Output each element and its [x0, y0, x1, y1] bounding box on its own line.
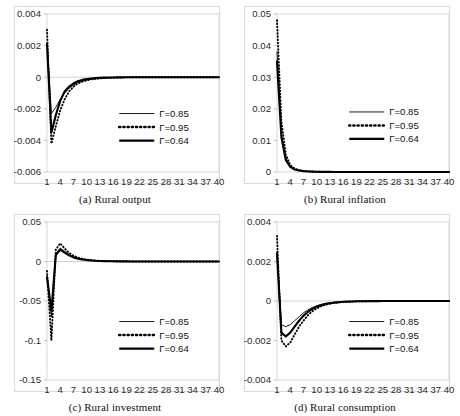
- legend-label-1: Γ=0.85: [389, 316, 419, 327]
- x-tick-label: 4: [58, 384, 64, 395]
- x-tick-label: 40: [214, 176, 225, 187]
- x-tick-label: 13: [325, 176, 336, 187]
- x-tick-label: 4: [288, 384, 294, 395]
- x-tick-label: 28: [391, 176, 402, 187]
- x-tick-label: 31: [174, 176, 185, 187]
- plot-border: [277, 14, 449, 172]
- x-tick-label: 25: [378, 176, 389, 187]
- chart-a: 0.0040.0020-0.002-0.004-0.00614710131619…: [0, 0, 230, 208]
- panel-caption-b: (b) Rural inflation: [230, 193, 460, 205]
- x-tick-label: 28: [161, 176, 172, 187]
- x-tick-label: 19: [121, 176, 132, 187]
- chart-c: 0.050-0.05-0.1-0.15147101316192225283134…: [0, 208, 230, 416]
- chart-d: 0.0040.0020-0.002-0.00414710131619222528…: [230, 208, 460, 416]
- legend-label-3: Γ=0.64: [159, 135, 189, 146]
- x-tick-label: 34: [187, 384, 198, 395]
- y-tick-label: -0.002: [244, 335, 271, 346]
- x-tick-label: 40: [444, 384, 455, 395]
- y-tick-label: 0.03: [252, 72, 271, 83]
- x-tick-label: 37: [430, 176, 441, 187]
- legend-label-3: Γ=0.64: [389, 133, 419, 144]
- y-tick-label: -0.05: [19, 295, 41, 306]
- y-tick-label: -0.004: [14, 135, 42, 146]
- x-tick-label: 40: [214, 384, 225, 395]
- y-tick-label: 0.04: [252, 40, 271, 51]
- x-tick-label: 34: [417, 176, 428, 187]
- y-tick-label: 0.01: [252, 135, 271, 146]
- y-tick-label: 0.004: [17, 8, 42, 19]
- legend-label-2: Γ=0.95: [159, 330, 189, 341]
- y-tick-label: 0.002: [247, 256, 271, 267]
- x-tick-label: 7: [301, 176, 306, 187]
- legend-label-3: Γ=0.64: [389, 343, 419, 354]
- y-tick-label: 0: [266, 295, 271, 306]
- panel-a: 0.0040.0020-0.002-0.004-0.00614710131619…: [0, 0, 230, 208]
- x-tick-label: 28: [161, 384, 172, 395]
- x-tick-label: 40: [444, 176, 455, 187]
- x-tick-label: 31: [404, 384, 415, 395]
- y-tick-label: 0: [36, 72, 41, 83]
- x-tick-label: 22: [134, 384, 145, 395]
- y-tick-label: 0.02: [252, 103, 271, 114]
- x-tick-label: 31: [404, 176, 415, 187]
- y-tick-label: 0.002: [17, 40, 41, 51]
- y-tick-label: 0: [266, 166, 271, 177]
- x-tick-label: 25: [148, 176, 159, 187]
- x-tick-label: 10: [311, 176, 322, 187]
- x-tick-label: 37: [200, 176, 211, 187]
- x-tick-label: 16: [108, 384, 119, 395]
- y-tick-label: -0.15: [19, 374, 41, 385]
- y-tick-label: 0.05: [252, 8, 271, 19]
- y-tick-label: -0.1: [24, 335, 41, 346]
- x-tick-label: 13: [325, 384, 336, 395]
- y-tick-label: -0.004: [244, 374, 272, 385]
- y-tick-label: 0.004: [247, 216, 272, 227]
- panel-caption-c: (c) Rural investment: [0, 401, 230, 413]
- figure-container: 0.0040.0020-0.002-0.004-0.00614710131619…: [0, 0, 460, 416]
- x-tick-label: 22: [364, 384, 375, 395]
- x-tick-label: 4: [58, 176, 64, 187]
- panel-d: 0.0040.0020-0.002-0.00414710131619222528…: [230, 208, 460, 416]
- y-tick-label: 0.05: [22, 216, 41, 227]
- x-tick-label: 1: [274, 176, 279, 187]
- x-tick-label: 22: [134, 176, 145, 187]
- legend-label-1: Γ=0.85: [159, 108, 189, 119]
- panel-b: 0.050.040.030.020.0101471013161922252831…: [230, 0, 460, 208]
- x-tick-label: 25: [378, 384, 389, 395]
- x-tick-label: 4: [288, 176, 294, 187]
- x-tick-label: 13: [95, 176, 106, 187]
- legend-label-1: Γ=0.85: [389, 106, 419, 117]
- x-tick-label: 16: [108, 176, 119, 187]
- x-tick-label: 1: [44, 384, 49, 395]
- plot-border: [47, 222, 219, 380]
- legend-label-2: Γ=0.95: [159, 122, 189, 133]
- y-tick-label: 0: [36, 256, 41, 267]
- legend-label-2: Γ=0.95: [389, 120, 419, 131]
- x-tick-label: 34: [187, 176, 198, 187]
- legend-label-2: Γ=0.95: [389, 330, 419, 341]
- x-tick-label: 25: [148, 384, 159, 395]
- panel-caption-a: (a) Rural output: [0, 193, 230, 205]
- x-tick-label: 22: [364, 176, 375, 187]
- chart-b: 0.050.040.030.020.0101471013161922252831…: [230, 0, 460, 208]
- x-tick-label: 1: [44, 176, 49, 187]
- x-tick-label: 34: [417, 384, 428, 395]
- x-tick-label: 13: [95, 384, 106, 395]
- x-tick-label: 19: [351, 176, 362, 187]
- x-tick-label: 10: [81, 384, 92, 395]
- x-tick-label: 31: [174, 384, 185, 395]
- x-tick-label: 19: [121, 384, 132, 395]
- x-tick-label: 19: [351, 384, 362, 395]
- x-tick-label: 10: [311, 384, 322, 395]
- x-tick-label: 37: [430, 384, 441, 395]
- x-tick-label: 7: [71, 176, 76, 187]
- x-tick-label: 7: [71, 384, 76, 395]
- x-tick-label: 37: [200, 384, 211, 395]
- legend-label-3: Γ=0.64: [159, 343, 189, 354]
- x-tick-label: 28: [391, 384, 402, 395]
- y-tick-label: -0.002: [14, 103, 41, 114]
- x-tick-label: 16: [338, 384, 349, 395]
- x-tick-label: 7: [301, 384, 306, 395]
- legend-label-1: Γ=0.85: [159, 316, 189, 327]
- panel-caption-d: (d) Rural consumption: [230, 401, 460, 413]
